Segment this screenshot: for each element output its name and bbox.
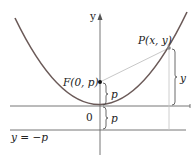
directrix-label: y = −p [10,131,48,143]
parabola-diagram: y 0 F(0, p) P(x, y) p p y y = −p [0,0,194,164]
point-p [167,46,171,50]
focus-label: F(0, p) [62,76,99,88]
focus-to-point-segment [100,48,169,82]
point-label: P(x, y) [137,34,172,46]
brace-vertex-directrix [103,107,108,129]
brace-p-upper-label: p [111,88,118,100]
origin-label: 0 [86,111,93,123]
brace-p-lower-label: p [111,112,118,124]
y-axis-label: y [89,10,96,22]
brace-y-label: y [179,72,187,84]
brace-point-height [172,49,177,105]
focus-point [98,80,102,84]
brace-focus-vertex [103,83,108,105]
y-axis-arrow-icon [98,13,103,20]
parabola-curve [15,12,187,105]
